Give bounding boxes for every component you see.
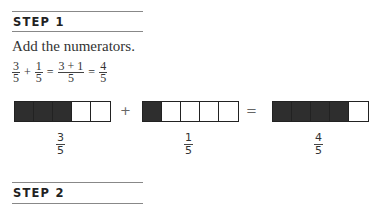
step1-bottom-rule xyxy=(12,31,143,32)
empty-cell xyxy=(200,102,219,121)
fraction-sum: 3 + 1 5 xyxy=(58,61,85,84)
fraction-bar-one-fifth xyxy=(142,101,239,122)
equals-sign: = xyxy=(88,65,95,80)
step1-title: STEP 1 xyxy=(13,15,65,29)
empty-cell xyxy=(72,102,91,121)
fraction-a: 3 5 xyxy=(12,61,20,84)
shaded-cell xyxy=(273,102,292,121)
plus-sign: + xyxy=(24,65,31,80)
step1-top-rule xyxy=(12,11,143,12)
fraction-bar-three-fifths xyxy=(14,101,111,122)
empty-cell xyxy=(349,102,368,121)
fraction-equation: 3 5 + 1 5 = 3 + 1 5 = 4 5 xyxy=(12,58,107,86)
empty-cell xyxy=(181,102,200,121)
shaded-cell xyxy=(330,102,349,121)
step1-instruction: Add the numerators. xyxy=(12,38,135,55)
step2-bottom-rule xyxy=(12,203,143,204)
bar-label-one-fifth: 1 5 xyxy=(184,132,193,157)
plus-symbol: + xyxy=(120,103,131,118)
step2-top-rule xyxy=(12,182,143,183)
shaded-cell xyxy=(292,102,311,121)
fraction-result: 4 5 xyxy=(99,61,107,84)
bar-label-four-fifths: 4 5 xyxy=(314,132,323,157)
shaded-cell xyxy=(34,102,53,121)
fraction-b: 1 5 xyxy=(35,61,43,84)
equals-sign: = xyxy=(47,65,54,80)
bar-label-three-fifths: 3 5 xyxy=(56,132,65,157)
shaded-cell xyxy=(143,102,162,121)
empty-cell xyxy=(91,102,110,121)
fraction-bar-four-fifths xyxy=(272,101,369,122)
shaded-cell xyxy=(15,102,34,121)
shaded-cell xyxy=(311,102,330,121)
empty-cell xyxy=(219,102,238,121)
equals-symbol: = xyxy=(246,103,257,118)
shaded-cell xyxy=(53,102,72,121)
empty-cell xyxy=(162,102,181,121)
step2-title: STEP 2 xyxy=(13,186,65,200)
